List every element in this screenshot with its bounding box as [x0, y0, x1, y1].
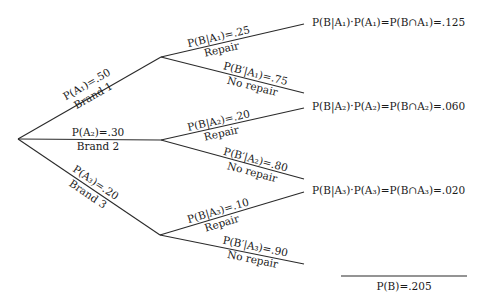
brand-2-label: Brand 2 [77, 140, 120, 152]
tree-canvas: P(A₁)=.50 Brand 1 P(A₂)=.30 Brand 2 P(A₃… [0, 0, 482, 303]
prob-a2-label: P(A₂)=.30 [72, 126, 125, 138]
probability-tree-diagram: P(A₁)=.50 Brand 1 P(A₂)=.30 Brand 2 P(A₃… [0, 0, 482, 303]
total-prob-b: P(B)=.205 [376, 280, 431, 292]
joint-prob-a1: P(B|A₁)·P(A₁)=P(B∩A₁)=.125 [312, 16, 465, 30]
joint-prob-a3: P(B|A₃)·P(A₃)=P(B∩A₃)=.020 [312, 184, 465, 198]
joint-prob-a2: P(B|A₂)·P(A₂)=P(B∩A₂)=.060 [312, 100, 465, 114]
